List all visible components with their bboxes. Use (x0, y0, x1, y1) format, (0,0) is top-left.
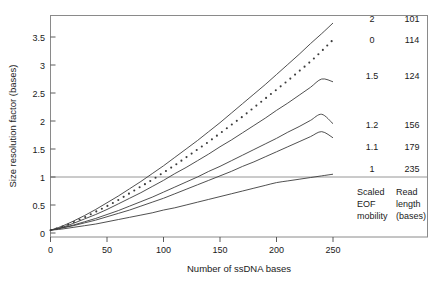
legend-readlength-value: 156 (404, 120, 419, 130)
legend-readlength-value: 235 (404, 164, 419, 174)
x-tick-label: 0 (48, 245, 53, 255)
y-tick-label: 3 (40, 61, 45, 71)
y-tick-label: 1 (40, 173, 45, 183)
legend-mobility-value: 1.5 (366, 71, 379, 81)
y-tick-label: 2.5 (32, 89, 45, 99)
chart-svg: 0 0.5 1 1.5 2 2.5 3 3.5 0 50 100 150 200… (0, 0, 445, 283)
y-tick-label: 0 (40, 229, 45, 239)
y-tick-label: 2 (40, 117, 45, 127)
legend-readlength-value: 124 (404, 71, 419, 81)
chart-figure: 0 0.5 1 1.5 2 2.5 3 3.5 0 50 100 150 200… (0, 0, 445, 283)
x-tick-label: 200 (269, 245, 284, 255)
legend-mobility-value: 1 (369, 164, 374, 174)
legend-header-line: Read (396, 187, 418, 197)
legend-mobility-value: 1.2 (366, 120, 379, 130)
x-axis-title: Number of ssDNA bases (187, 263, 291, 274)
x-tick-label: 100 (156, 245, 171, 255)
legend-mobility-value: 0 (369, 35, 374, 45)
legend-header-line: length (396, 199, 421, 209)
y-tick-label: 0.5 (32, 201, 45, 211)
x-tick-label: 50 (102, 245, 112, 255)
legend-readlength-value: 114 (405, 35, 419, 45)
y-tick-label: 1.5 (32, 145, 45, 155)
y-axis-title: Size resolution factor (bases) (7, 64, 18, 187)
legend-header-line: EOF (357, 199, 376, 209)
legend-readlength-value: 179 (404, 142, 419, 152)
legend-header-line: mobility (357, 211, 388, 221)
y-tick-label: 3.5 (32, 33, 45, 43)
legend-mobility-value: 2 (369, 14, 374, 24)
legend-readlength-value: 101 (404, 14, 419, 24)
legend-header-line: Scaled (357, 187, 385, 197)
legend-mobility-value: 1.1 (366, 142, 379, 152)
x-tick-label: 150 (212, 245, 227, 255)
legend-header-line: (bases) (396, 211, 426, 221)
x-tick-label: 250 (325, 245, 340, 255)
